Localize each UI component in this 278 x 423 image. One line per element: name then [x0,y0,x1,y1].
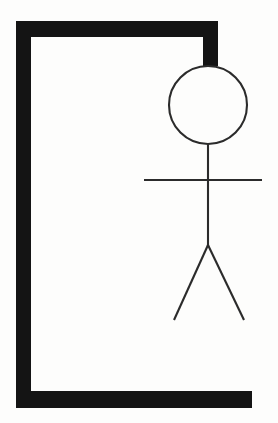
right-leg-shape [208,245,244,320]
rope-shape [203,35,218,66]
top-beam-shape [16,21,218,37]
hangman-drawing [0,0,278,423]
left-leg-shape [174,245,208,320]
base-bar-shape [16,391,252,408]
hangman-canvas [0,0,278,423]
upright-post-shape [16,21,31,408]
head-shape [169,66,247,144]
